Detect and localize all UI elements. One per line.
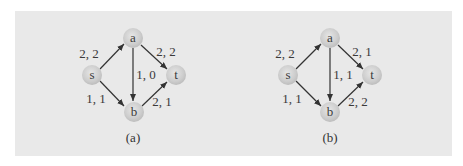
edge-s-a [100,44,124,69]
graph-b: s a b t 2, 2 2, 1 1, 1 1, 1 2, 2 (b) [275,28,382,145]
edge-label-a-b: 1, 0 [136,67,156,82]
edge-label-s-b: 1, 1 [86,91,106,106]
node-label-s: s [285,67,290,82]
caption-a: (a) [126,130,140,145]
node-label-t: t [370,67,374,82]
node-label-a: a [130,30,136,45]
node-label-t: t [174,67,178,82]
flow-network-figure: s a b t 2, 2 2, 2 1, 0 1, 1 2, 1 (a) s a… [0,0,463,166]
edge-label-s-a: 2, 2 [79,46,99,61]
edge-label-a-b: 1, 1 [333,67,353,82]
edge-label-b-t: 2, 1 [152,94,172,109]
edge-label-a-t: 2, 2 [156,44,176,59]
node-label-b: b [327,104,334,119]
node-label-s: s [89,67,94,82]
graph-a: s a b t 2, 2 2, 2 1, 0 1, 1 2, 1 (a) [79,28,186,145]
caption-b: (b) [322,130,337,145]
node-label-b: b [131,104,138,119]
node-label-a: a [327,30,333,45]
edge-label-a-t: 2, 1 [352,44,372,59]
edge-label-b-t: 2, 2 [348,94,368,109]
edge-s-a [296,44,321,69]
edge-label-s-b: 1, 1 [282,91,302,106]
edge-label-s-a: 2, 2 [275,46,295,61]
